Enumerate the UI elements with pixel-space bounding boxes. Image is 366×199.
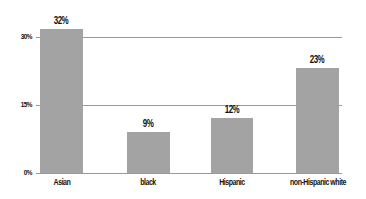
bar-non-hispanic-white: [296, 68, 339, 173]
y-tick-label-0: 0%: [8, 168, 32, 177]
category-label-asian: Asian: [23, 177, 101, 187]
value-label-black: 9%: [124, 118, 172, 129]
value-label-hispanic: 12%: [208, 104, 256, 115]
value-label-asian: 32%: [37, 15, 85, 26]
category-label-non-hispanic-white: non-Hispanic white: [279, 177, 357, 187]
value-label-non-hispanic-white: 23%: [293, 54, 341, 65]
gridline-0: [36, 173, 342, 174]
y-tick-label-30: 30%: [8, 32, 32, 41]
bar-asian: [40, 29, 83, 173]
category-label-hispanic: Hispanic: [193, 177, 271, 187]
bar-hispanic: [211, 118, 253, 173]
bar-chart: 30% 15% 0% 32% 9% 12% 23% Asian black Hi…: [0, 0, 366, 199]
y-tick-label-15: 15%: [8, 100, 32, 109]
category-label-black: black: [109, 177, 187, 187]
bar-black: [127, 132, 170, 173]
